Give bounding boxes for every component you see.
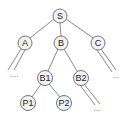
edge-s-a	[30, 19, 54, 38]
node-p2: P2	[57, 96, 72, 111]
tree-diagram: .... ... ... S A B C B1 B2 P1 P2	[0, 0, 130, 124]
node-b1-label: B1	[39, 73, 50, 83]
node-b2-label: B2	[75, 73, 86, 83]
node-p1: P1	[21, 96, 36, 111]
edge-b1-p2	[49, 84, 60, 97]
continuation-a-dots: ....	[10, 70, 19, 79]
edge-s-b	[60, 23, 61, 36]
node-a: A	[18, 36, 32, 50]
continuation-a-line-2	[14, 50, 25, 70]
continuation-c-dots: ...	[113, 71, 120, 80]
edge-b-b1	[48, 49, 58, 71]
node-c-label: C	[95, 38, 102, 48]
node-p1-label: P1	[22, 98, 33, 108]
node-c: C	[91, 36, 105, 50]
node-s-label: S	[57, 11, 63, 21]
edge-s-c	[66, 19, 93, 38]
edge-b-b2	[64, 49, 77, 71]
node-a-label: A	[22, 38, 28, 48]
node-b1: B1	[38, 71, 53, 86]
node-b: B	[54, 36, 68, 50]
node-s: S	[53, 9, 67, 23]
continuation-a-line-1	[8, 49, 21, 70]
continuation-b2-dots: ...	[94, 104, 101, 113]
node-b-label: B	[58, 38, 64, 48]
node-p2-label: P2	[58, 98, 69, 108]
node-b2: B2	[74, 71, 89, 86]
edge-b1-p1	[32, 84, 41, 97]
